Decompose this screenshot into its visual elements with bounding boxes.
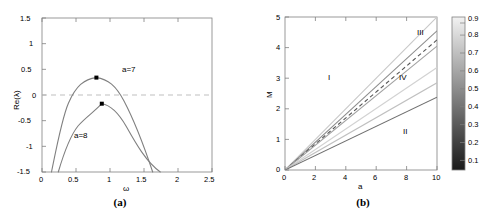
panel-b-xtick-2: 2	[312, 173, 316, 182]
panel-b-xtick-10: 10	[432, 173, 440, 182]
panel-b: 5 4 3 2 1 0 0 2 4 6 8 10 M a I II III IV…	[250, 0, 500, 217]
panel-a-ylabel: Re(λ)	[12, 90, 21, 110]
panel-a-xtick-2_5: 2.5	[204, 175, 214, 184]
colorbar-tick-0_7: 0.7	[468, 48, 478, 57]
panel-a-ytick-0: 0	[32, 91, 36, 100]
panel-a-xtick-0_5: 0.5	[68, 175, 78, 184]
panel-b-xtick-0: 0	[282, 173, 286, 182]
panel-a-ytick-1: 1	[29, 39, 33, 48]
panel-b-plot	[250, 0, 500, 217]
colorbar-tick-0_9: 0.9	[468, 14, 478, 23]
marker-peak-a8	[100, 102, 104, 106]
region-label-III: III	[417, 28, 424, 37]
panel-a-xlabel: ω	[123, 184, 129, 193]
panel-a: 1.5 1 0.5 0 -0.5 -1 -1.5 0 0.5 1 1.5 2 2…	[0, 0, 250, 217]
panel-b-xlabel: a	[358, 182, 362, 191]
panel-b-ytick-2: 2	[276, 104, 280, 113]
panel-b-ytick-1: 1	[276, 135, 280, 144]
panel-a-caption: (a)	[100, 196, 140, 208]
panel-a-ytick-0_5: 0.5	[21, 65, 31, 74]
panel-a-ytick-m1: -1	[26, 142, 33, 151]
marker-peak-a7	[94, 76, 98, 80]
colorbar-tick-0_1: 0.1	[468, 156, 478, 165]
panel-a-xtick-2: 2	[175, 175, 179, 184]
colorbar-tick-0_6: 0.6	[468, 66, 478, 75]
panel-b-ytick-3: 3	[276, 74, 280, 83]
panel-a-xtick-1_5: 1.5	[136, 175, 146, 184]
figure-container: 1.5 1 0.5 0 -0.5 -1 -1.5 0 0.5 1 1.5 2 2…	[0, 0, 500, 217]
colorbar-tick-0_2: 0.2	[468, 138, 478, 147]
panel-a-ytick-m1_5: -1.5	[17, 167, 30, 176]
panel-b-ytick-0: 0	[276, 165, 280, 174]
curve-label-a8: a=8	[74, 131, 88, 140]
region-label-IV: IV	[399, 73, 407, 82]
panel-a-xtick-1: 1	[107, 175, 111, 184]
region-label-II: II	[403, 127, 407, 136]
region-label-I: I	[328, 73, 330, 82]
colorbar-tick-0_8: 0.8	[468, 30, 478, 39]
panel-b-xtick-8: 8	[404, 173, 408, 182]
colorbar-tick-0_3: 0.3	[468, 120, 478, 129]
colorbar-gradient	[452, 17, 465, 170]
panel-a-ytick-1_5: 1.5	[20, 14, 30, 23]
colorbar-tick-0_5: 0.5	[468, 84, 478, 93]
panel-b-caption: (b)	[343, 196, 383, 208]
panel-b-xtick-4: 4	[343, 173, 347, 182]
panel-a-xtick-0: 0	[39, 175, 43, 184]
panel-b-ytick-5: 5	[276, 13, 280, 22]
panel-b-ylabel: M	[265, 91, 274, 98]
curve-label-a7: a=7	[122, 65, 136, 74]
panel-b-ytick-4: 4	[276, 43, 280, 52]
panel-a-ytick-m0_5: -0.5	[18, 116, 31, 125]
colorbar-tick-0_4: 0.4	[468, 102, 478, 111]
panel-b-xtick-6: 6	[373, 173, 377, 182]
